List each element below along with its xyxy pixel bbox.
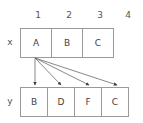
cell-x-1[interactable]: A [20,28,52,58]
row-label-y: y [4,96,16,107]
arrow-x1-to-y3 [35,58,89,85]
column-label-1: 1 [24,10,52,21]
cell-x-2[interactable]: B [51,28,83,58]
column-label-3: 3 [86,10,114,21]
cell-x-3[interactable]: C [82,28,114,58]
cell-y-3[interactable]: F [74,87,102,117]
cell-y-1[interactable]: B [20,87,48,117]
column-label-4: 4 [114,10,142,21]
arrow-x1-to-y2 [35,58,61,85]
cell-y-2[interactable]: D [47,87,75,117]
arrow-x1-to-y4 [35,58,117,85]
diagram-canvas: 1 2 3 4 x y A B C B D F C [0,0,143,123]
row-label-x: x [4,37,16,48]
column-label-2: 2 [55,10,83,21]
cell-y-4[interactable]: C [101,87,129,117]
array-row-x: A B C [20,28,114,58]
array-row-y: B D F C [20,87,129,117]
